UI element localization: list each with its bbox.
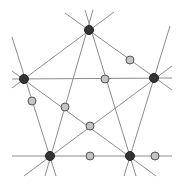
- diagram-canvas: [0, 0, 180, 184]
- dark-node-BL: [46, 152, 55, 161]
- light-nodes-layer: [28, 56, 159, 160]
- line-h-top: [12, 78, 172, 79]
- lines-layer: [12, 10, 172, 176]
- dark-node-L: [20, 75, 29, 84]
- dark-node-T: [85, 26, 94, 35]
- dark-node-R: [150, 74, 159, 83]
- light-node-p6: [86, 152, 94, 160]
- light-node-p3: [28, 97, 36, 105]
- line-R-BL: [24, 66, 172, 176]
- point-line-configuration: [0, 0, 180, 184]
- light-node-p5: [86, 122, 94, 130]
- line-L-BR: [12, 71, 156, 176]
- light-node-p4: [61, 103, 69, 111]
- dark-node-BR: [126, 152, 135, 161]
- light-node-p2: [101, 75, 109, 83]
- light-node-p1: [126, 56, 134, 64]
- light-node-p7: [151, 152, 159, 160]
- line-T-BR: [85, 10, 136, 176]
- line-T-BL: [45, 10, 93, 176]
- dark-nodes-layer: [20, 26, 159, 161]
